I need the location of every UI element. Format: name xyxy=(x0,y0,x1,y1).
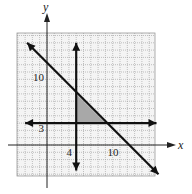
x-axis-arrow xyxy=(167,142,176,148)
y-axis-label: y xyxy=(42,0,49,14)
x-tick-label: 4 xyxy=(66,146,72,158)
x-axis-label: x xyxy=(177,138,184,152)
y-tick-label: 3 xyxy=(39,122,45,134)
y-tick-label: 10 xyxy=(33,71,45,83)
x-tick-label: 10 xyxy=(108,146,120,158)
y-axis-arrow xyxy=(44,13,50,22)
inequality-graph: 410310 x y xyxy=(0,0,192,194)
